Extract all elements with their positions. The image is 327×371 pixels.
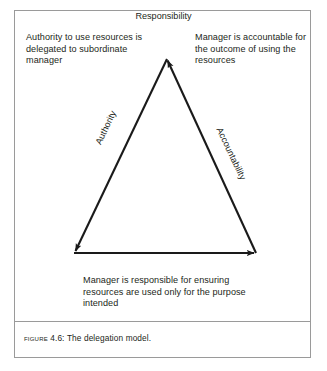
caption-figure-title: The delegation model. xyxy=(67,333,151,343)
diagram-area: Authority to use resources is delegated … xyxy=(15,11,310,323)
caption-figure-word: Figure xyxy=(24,333,48,343)
edge-accountability-line xyxy=(168,61,256,254)
caption-bar: Figure 4.6: The delegation model. xyxy=(15,321,310,357)
edge-authority-line xyxy=(76,59,168,251)
figure-caption: Figure 4.6: The delegation model. xyxy=(24,333,151,343)
note-authority: Authority to use resources is delegated … xyxy=(26,32,161,67)
note-accountability: Manager is accountable for the outcome o… xyxy=(195,32,311,67)
note-responsibility: Manager is responsible for ensuring reso… xyxy=(83,275,263,310)
caption-figure-number: 4.6: xyxy=(50,333,64,343)
figure-frame: Authority to use resources is delegated … xyxy=(14,10,311,358)
